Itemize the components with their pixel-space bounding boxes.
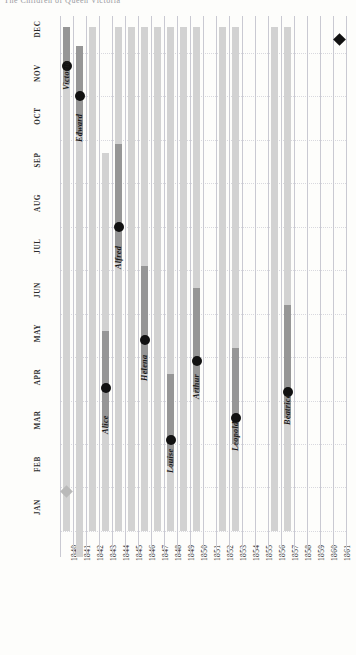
y-tick-aug: AUG — [34, 183, 42, 223]
x-tick-1841: 1841 — [83, 545, 92, 561]
year-gridline-1858 — [294, 16, 295, 557]
year-gridline-1845 — [125, 16, 126, 557]
x-tick-1859: 1859 — [317, 545, 326, 561]
y-tick-apr: APR — [34, 357, 42, 397]
x-tick-1842: 1842 — [96, 545, 105, 561]
year-gridline-1844 — [112, 16, 113, 557]
y-tick-jan: JAN — [34, 487, 42, 527]
year-gridline-1840 — [60, 16, 61, 557]
y-tick-dec: DEC — [34, 9, 42, 49]
y-tick-nov: NOV — [34, 53, 42, 93]
x-tick-1855: 1855 — [265, 545, 274, 561]
year-gridline-1854 — [242, 16, 243, 557]
year-gridline-1842 — [86, 16, 87, 557]
birth-marker-louise — [166, 435, 176, 445]
bar-light-alfred — [115, 27, 122, 531]
bar-light2-edward — [76, 135, 83, 513]
marker-death-of-albert — [333, 34, 346, 47]
x-tick-1852: 1852 — [226, 545, 235, 561]
y-tick-mar: MAR — [34, 400, 42, 440]
x-tick-1850: 1850 — [200, 545, 209, 561]
bar-dark-alfred — [115, 144, 122, 261]
year-gridline-1852 — [216, 16, 217, 557]
year-gridline-1850 — [190, 16, 191, 557]
y-tick-jul: JUL — [34, 226, 42, 266]
birth-marker-alice — [101, 383, 111, 393]
x-tick-1860: 1860 — [330, 545, 339, 561]
y-tick-jun: JUN — [34, 270, 42, 310]
series-label-edward: Edward — [75, 114, 84, 142]
year-gridline-1841 — [73, 16, 74, 557]
x-tick-1851: 1851 — [213, 545, 222, 561]
year-gridline-1847 — [151, 16, 152, 557]
x-tick-1848: 1848 — [174, 545, 183, 561]
y-tick-sep: SEP — [34, 140, 42, 180]
year-gridline-1861 — [333, 16, 334, 557]
x-tick-1857: 1857 — [291, 545, 300, 561]
year-gridline-1860 — [320, 16, 321, 557]
year-column-1845 — [128, 27, 135, 531]
y-tick-may: MAY — [34, 313, 42, 353]
year-gridline-1843 — [99, 16, 100, 557]
bar-light-edward — [76, 514, 83, 557]
year-gridline-1856 — [268, 16, 269, 557]
bar-light-leopold — [232, 27, 239, 531]
year-gridline-1851 — [203, 16, 204, 557]
x-tick-1846: 1846 — [148, 545, 157, 561]
bar-light-arthur — [193, 27, 200, 531]
bar-dark-alice — [102, 331, 109, 427]
year-gridline-1853 — [229, 16, 230, 557]
year-column-1856 — [271, 27, 278, 531]
birth-marker-edward — [75, 91, 85, 101]
year-column-1852 — [219, 27, 226, 531]
x-tick-1856: 1856 — [278, 545, 287, 561]
year-gridline-1846 — [138, 16, 139, 557]
x-tick-1845: 1845 — [135, 545, 144, 561]
year-gridline-1849 — [177, 16, 178, 557]
x-tick-1844: 1844 — [122, 545, 131, 561]
series-label-alfred: Alfred — [114, 245, 123, 268]
x-tick-1858: 1858 — [304, 545, 313, 561]
birth-marker-arthur — [192, 356, 202, 366]
series-label-arthur: Arthur — [192, 374, 201, 399]
birth-marker-alfred — [114, 222, 124, 232]
x-tick-1847: 1847 — [161, 545, 170, 561]
series-label-leopold: Leopold — [231, 422, 240, 451]
chart-title: The Children of Queen Victoria — [4, 0, 121, 5]
plot-area: JANFEBMARAPRMAYJUNJULAUGSEPOCTNOVDEC1840… — [30, 16, 350, 557]
year-gridline-1857 — [281, 16, 282, 557]
series-label-louise: Louise — [166, 448, 175, 473]
title-strip: The Children of Queen Victoria — [0, 0, 356, 11]
x-tick-1854: 1854 — [252, 545, 261, 561]
x-tick-1853: 1853 — [239, 545, 248, 561]
x-tick-1843: 1843 — [109, 545, 118, 561]
y-tick-feb: FEB — [34, 444, 42, 484]
series-label-beatrice: Beatrice — [283, 394, 292, 425]
bar-light-victoria — [63, 27, 70, 531]
birth-marker-helena — [140, 335, 150, 345]
year-column-1842 — [89, 27, 96, 531]
x-tick-1849: 1849 — [187, 545, 196, 561]
year-column-1847 — [154, 27, 161, 531]
series-label-victoria: Victoria — [62, 61, 71, 90]
year-gridline-1855 — [255, 16, 256, 557]
series-label-alice: Alice — [101, 415, 110, 434]
x-tick-1861: 1861 — [343, 545, 352, 561]
y-tick-oct: OCT — [34, 96, 42, 136]
year-gridline-1848 — [164, 16, 165, 557]
year-gridline-1859 — [307, 16, 308, 557]
series-label-helena: Helena — [140, 355, 149, 381]
chart-canvas: The Children of Queen Victoria JANFEBMAR… — [0, 0, 356, 655]
bar-light-beatrice — [284, 27, 291, 531]
year-column-1849 — [180, 27, 187, 531]
year-gridline-end — [346, 16, 347, 557]
